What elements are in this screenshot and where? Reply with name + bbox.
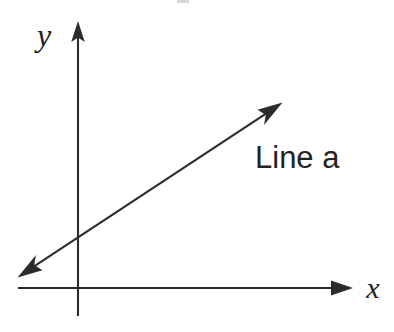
line-a-diagram: y x Line a	[0, 0, 394, 332]
scan-artifact	[177, 0, 189, 3]
x-axis-label: x	[365, 271, 380, 304]
x-axis-group	[18, 281, 353, 296]
line-a-arrowhead-lower-icon	[18, 255, 43, 278]
arrow-right-icon	[331, 281, 353, 296]
line-a-arrowhead-upper-icon	[258, 103, 283, 126]
line-a-group	[18, 103, 283, 278]
line-a-label: Line a	[255, 140, 340, 175]
y-axis-label: y	[34, 17, 52, 53]
y-axis-group	[71, 21, 85, 316]
diagram-canvas: y x Line a	[0, 0, 394, 332]
line-a-segment	[31, 112, 269, 269]
